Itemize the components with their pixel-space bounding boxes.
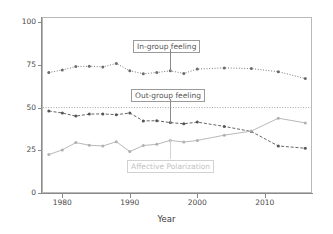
- data-point: [47, 153, 50, 156]
- data-point: [182, 141, 185, 144]
- data-point: [182, 122, 185, 125]
- data-point: [223, 125, 226, 128]
- data-point: [196, 68, 199, 71]
- data-point: [128, 150, 131, 153]
- data-point: [155, 119, 158, 122]
- data-point: [250, 130, 253, 133]
- data-point: [88, 65, 91, 68]
- data-point: [74, 65, 77, 68]
- annotation-in-group-feeling: In-group feeling: [133, 40, 200, 53]
- data-point: [155, 71, 158, 74]
- series-affective-polarization: [47, 117, 307, 156]
- affective-polarization-chart: 0255075100 1980199020002010 In-group fee…: [0, 0, 333, 234]
- data-point: [88, 144, 91, 147]
- annotation-affective-polarization: Affective Polarization: [127, 160, 214, 173]
- data-point: [61, 69, 64, 72]
- data-point: [101, 65, 104, 68]
- data-point: [101, 145, 104, 148]
- data-point: [182, 72, 185, 75]
- data-point: [101, 112, 104, 115]
- data-point: [74, 115, 77, 118]
- data-point: [88, 113, 91, 116]
- data-point: [74, 141, 77, 144]
- series-line: [49, 64, 306, 79]
- data-point: [128, 69, 131, 72]
- data-point: [250, 67, 253, 70]
- data-point: [304, 77, 307, 80]
- data-point: [304, 147, 307, 150]
- data-point: [47, 71, 50, 74]
- annotation-leader-out-group-feeling: [170, 99, 171, 123]
- data-point: [61, 112, 64, 115]
- data-point: [223, 134, 226, 137]
- annotation-out-group-feeling: Out-group feeling: [131, 89, 205, 102]
- series-line: [49, 111, 306, 148]
- data-point: [304, 121, 307, 124]
- data-point: [115, 140, 118, 143]
- data-point: [47, 110, 50, 113]
- series-layer: [0, 0, 333, 234]
- series-line: [49, 118, 306, 154]
- data-point: [142, 72, 145, 75]
- data-point: [128, 112, 131, 115]
- data-point: [277, 117, 280, 120]
- data-point: [277, 70, 280, 73]
- data-point: [142, 119, 145, 122]
- annotation-leader-in-group-feeling: [170, 49, 171, 71]
- data-point: [155, 143, 158, 146]
- data-point: [223, 66, 226, 69]
- data-point: [196, 121, 199, 124]
- series-in-group-feeling: [47, 62, 307, 80]
- data-point: [115, 113, 118, 116]
- data-point: [277, 145, 280, 148]
- data-point: [61, 148, 64, 151]
- x-axis-title: Year: [0, 214, 333, 224]
- data-point: [196, 139, 199, 142]
- series-out-group-feeling: [47, 110, 307, 150]
- data-point: [115, 62, 118, 65]
- data-point: [142, 144, 145, 147]
- annotation-leader-affective-polarization: [170, 140, 171, 159]
